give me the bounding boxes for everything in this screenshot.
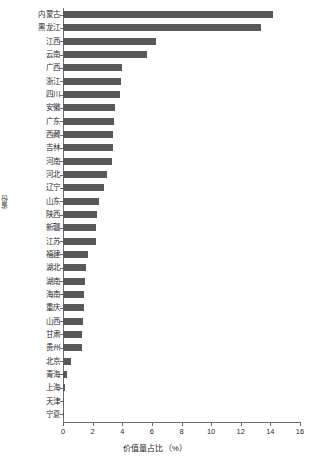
y-axis-tick-label: 广东 [4, 117, 60, 126]
y-axis-tick [60, 135, 63, 136]
bar-row [63, 408, 300, 421]
bar [63, 118, 114, 125]
y-axis-tick [60, 361, 63, 362]
y-axis-tick [60, 108, 63, 109]
y-axis-tick [60, 241, 63, 242]
y-axis-tick-label: 海南 [4, 290, 60, 299]
bar [63, 78, 121, 85]
y-axis-tick [60, 148, 63, 149]
y-axis-tick-label: 青海 [4, 370, 60, 379]
y-axis-tick-label: 陕西 [4, 210, 60, 219]
bar [63, 398, 64, 405]
bar [63, 91, 120, 98]
bar [63, 158, 112, 165]
y-axis-category-labels: 内蒙古黑龙江江西云南广西浙江四川安徽广东西藏吉林河南河北辽宁山东陕西新疆江苏福建… [0, 8, 60, 421]
x-axis-tick-label: 16 [288, 427, 310, 436]
bar [63, 64, 122, 71]
bar-row [63, 168, 300, 181]
bar-row [63, 141, 300, 154]
bar [63, 131, 113, 138]
bar-row [63, 155, 300, 168]
y-axis-tick [60, 175, 63, 176]
y-axis-tick-label: 广西 [4, 63, 60, 72]
y-axis-tick [60, 294, 63, 295]
bar-row [63, 35, 300, 48]
y-axis-tick-label: 福建 [4, 250, 60, 259]
y-axis-tick-label: 北京 [4, 357, 60, 366]
y-axis-tick [60, 388, 63, 389]
y-axis-tick-label: 湖南 [4, 277, 60, 286]
x-axis-tick-label: 4 [110, 427, 134, 436]
y-axis-tick-label: 河北 [4, 170, 60, 179]
y-axis-tick [60, 28, 63, 29]
y-axis-tick [60, 15, 63, 16]
bar-row [63, 195, 300, 208]
y-axis-tick-label: 吉林 [4, 143, 60, 152]
y-axis-tick-label: 云南 [4, 50, 60, 59]
bar-row [63, 115, 300, 128]
bar [63, 411, 64, 418]
x-axis-tick [270, 422, 271, 426]
bar-chart: 省份 内蒙古黑龙江江西云南广西浙江四川安徽广东西藏吉林河南河北辽宁山东陕西新疆江… [0, 0, 310, 470]
y-axis-tick [60, 95, 63, 96]
bar [63, 38, 156, 45]
bar-row [63, 341, 300, 354]
bar [63, 278, 85, 285]
bar-row [63, 261, 300, 274]
y-axis-tick [60, 68, 63, 69]
y-axis-tick [60, 268, 63, 269]
x-axis-tick-label: 0 [51, 427, 75, 436]
bar-row [63, 101, 300, 114]
bar-row [63, 208, 300, 221]
bar [63, 264, 86, 271]
bar-row [63, 301, 300, 314]
x-axis-tick [63, 422, 64, 426]
y-axis-tick-label: 贵州 [4, 343, 60, 352]
bar [63, 251, 88, 258]
bar-row [63, 88, 300, 101]
y-axis-tick [60, 228, 63, 229]
y-axis-tick [60, 161, 63, 162]
y-axis-tick [60, 348, 63, 349]
y-axis-tick-label: 内蒙古 [4, 10, 60, 19]
y-axis-tick [60, 308, 63, 309]
bar [63, 224, 96, 231]
bar [63, 184, 104, 191]
bar-row [63, 354, 300, 367]
bar-row [63, 128, 300, 141]
y-axis-tick [60, 401, 63, 402]
y-axis-tick [60, 121, 63, 122]
y-axis-tick [60, 81, 63, 82]
x-axis-tick-label: 12 [229, 427, 253, 436]
y-axis-tick-label: 安徽 [4, 103, 60, 112]
x-axis-tick [93, 422, 94, 426]
bar-row [63, 8, 300, 21]
bar [63, 358, 71, 365]
bar-row [63, 328, 300, 341]
bar [63, 384, 65, 391]
bar-row [63, 314, 300, 327]
y-axis-tick [60, 188, 63, 189]
y-axis-tick-label: 四川 [4, 90, 60, 99]
y-axis-tick-label: 江苏 [4, 237, 60, 246]
x-axis-tick-label: 6 [140, 427, 164, 436]
y-axis-tick [60, 254, 63, 255]
x-axis-title: 价值量占比（%） [0, 442, 310, 453]
x-axis-tick [182, 422, 183, 426]
y-axis-tick-label: 辽宁 [4, 183, 60, 192]
plot-area [63, 8, 300, 421]
y-axis-tick [60, 201, 63, 202]
bar-row [63, 274, 300, 287]
y-axis-tick-label: 河南 [4, 157, 60, 166]
y-axis-tick-label: 黑龙江 [4, 23, 60, 32]
y-axis-tick [60, 41, 63, 42]
y-axis-tick-label: 新疆 [4, 223, 60, 232]
bar-row [63, 368, 300, 381]
y-axis-tick-label: 甘肃 [4, 330, 60, 339]
bar [63, 171, 107, 178]
bar [63, 198, 99, 205]
bar [63, 371, 67, 378]
y-axis-tick [60, 321, 63, 322]
y-axis-tick-label: 上海 [4, 383, 60, 392]
y-axis-tick [60, 55, 63, 56]
